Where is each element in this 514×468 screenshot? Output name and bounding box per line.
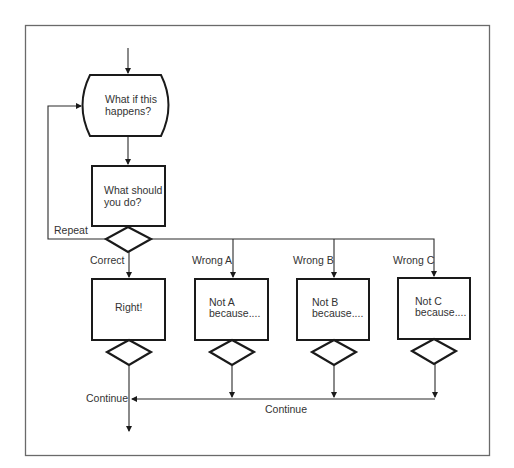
not-a-text-line2: because.... — [209, 307, 260, 319]
wrong-b-label: Wrong B — [293, 254, 334, 266]
decision-diamond-not-c — [412, 339, 456, 364]
repeat-label: Repeat — [54, 224, 88, 236]
question-text-line2: happens? — [105, 105, 151, 117]
right-text: Right! — [115, 301, 142, 313]
continue-label-left: Continue — [86, 392, 128, 404]
decision-diamond-main — [106, 227, 151, 252]
action-node: What should you do? — [92, 166, 165, 226]
wrong-a-label: Wrong A — [192, 254, 232, 266]
right-node: Right! — [92, 279, 165, 340]
question-text-line1: What if this — [105, 93, 157, 105]
decision-diamond-not-a — [210, 340, 254, 365]
not-a-node: Not A because.... — [195, 279, 268, 340]
question-node: What if this happens? — [83, 75, 169, 136]
not-c-text-line2: because.... — [415, 306, 466, 318]
continue-label-bottom: Continue — [265, 403, 307, 415]
action-text-line2: you do? — [104, 196, 142, 208]
decision-diamond-not-b — [312, 340, 356, 365]
not-b-text-line2: because.... — [312, 307, 363, 319]
wrong-c-label: Wrong C — [393, 254, 435, 266]
decision-diamond-right — [107, 340, 151, 365]
correct-label: Correct — [90, 254, 125, 266]
not-c-node: Not C because.... — [398, 278, 470, 339]
flowchart-diagram: What if this happens? What should you do… — [0, 0, 514, 468]
action-text-line1: What should — [104, 184, 163, 196]
not-b-node: Not B because.... — [297, 279, 369, 340]
